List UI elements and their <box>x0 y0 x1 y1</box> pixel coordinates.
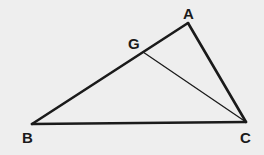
segment-bc <box>32 122 246 124</box>
point-label-g: G <box>128 35 140 52</box>
vertex-label-a: A <box>183 5 194 22</box>
vertex-label-b: B <box>22 129 33 146</box>
diagram-svg: A G B C <box>0 0 264 155</box>
segment-gc <box>143 52 246 122</box>
triangle-diagram: A G B C <box>0 0 264 155</box>
segment-ab <box>32 23 188 124</box>
vertex-label-c: C <box>240 129 251 146</box>
segment-ca <box>188 23 246 122</box>
